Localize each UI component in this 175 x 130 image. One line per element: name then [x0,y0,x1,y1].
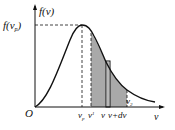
v2-label: v2 [126,96,133,107]
peak-label: f(vp) [3,19,22,32]
tick-v: v [101,110,105,120]
tick-v-plus-dv: v+dv [108,110,127,120]
y-axis-arrow-icon [33,4,37,10]
tick-v1: v1 [88,110,95,120]
tick-vp: vp [78,110,85,121]
y-axis-label: f(v) [39,5,55,18]
distribution-diagram: f(v) f(vp) O v vp v1 v v+dv v2 [0,0,175,130]
origin-label: O [25,107,33,119]
x-axis-label: v [154,111,159,122]
x-axis-arrow-icon [159,105,165,109]
